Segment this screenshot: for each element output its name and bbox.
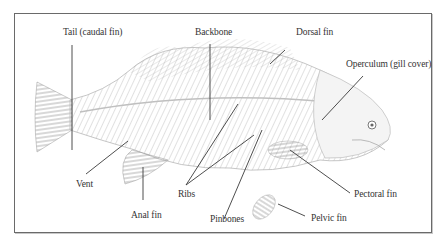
pelvic-fin-shape — [248, 190, 280, 223]
label-anal-fin: Anal fin — [131, 210, 162, 220]
label-vent: Vent — [76, 179, 93, 189]
label-pelvic-fin: Pelvic fin — [311, 213, 347, 223]
label-pinbones: Pinbones — [210, 214, 244, 224]
label-operculum: Operculum (gill cover) — [346, 59, 431, 69]
tail-shape — [35, 82, 72, 152]
pectoral-fin-shape — [268, 141, 308, 159]
label-tail: Tail (caudal fin) — [63, 27, 122, 37]
head-shape — [314, 70, 391, 158]
label-dorsal-fin: Dorsal fin — [296, 27, 333, 37]
label-ribs: Ribs — [178, 189, 195, 199]
label-backbone: Backbone — [195, 27, 232, 37]
label-pectoral-fin: Pectoral fin — [354, 189, 397, 199]
